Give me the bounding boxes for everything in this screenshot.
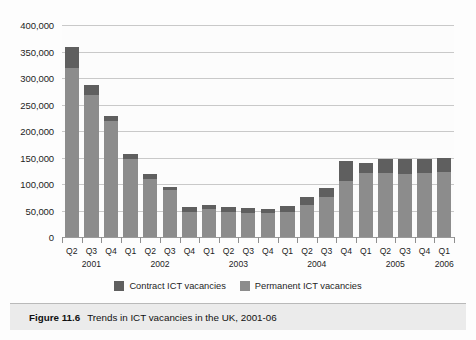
bar-series-group — [62, 25, 454, 237]
quarter-label: Q2 — [380, 246, 391, 256]
x-axis-tick — [434, 237, 435, 243]
figure-container: 050,000100,000150,000200,000250,000300,0… — [0, 0, 476, 340]
quarter-label: Q2 — [301, 246, 312, 256]
legend-swatch-icon — [114, 281, 124, 291]
bar-segment-permanent — [378, 173, 393, 237]
quarter-label: Q2 — [144, 246, 155, 256]
bar-segment-permanent — [339, 181, 354, 237]
quarter-label: Q1 — [438, 246, 449, 256]
year-label: 2004 — [307, 259, 326, 269]
bar-segment-contract — [319, 188, 334, 198]
x-axis-tick — [336, 237, 337, 243]
bar-column — [221, 207, 236, 237]
bar-column — [339, 161, 354, 237]
x-axis-tick — [121, 237, 122, 243]
legend-label: Permanent ICT vacancies — [255, 281, 362, 291]
quarter-label: Q3 — [321, 246, 332, 256]
quarter-label: Q1 — [203, 246, 214, 256]
bar-segment-permanent — [84, 95, 99, 237]
legend-item: Contract ICT vacancies — [114, 281, 225, 291]
x-axis-quarter-labels: Q2Q3Q4Q1Q2Q3Q4Q1Q2Q3Q4Q1Q2Q3Q4Q1Q2Q3Q4Q1 — [62, 246, 454, 259]
y-axis-tick-label: 50,000 — [26, 205, 54, 216]
bar-segment-permanent — [202, 209, 217, 237]
x-axis-tick — [376, 237, 377, 243]
legend-label: Contract ICT vacancies — [129, 281, 225, 291]
bar-column — [319, 188, 334, 237]
bar-column — [280, 206, 295, 237]
bar-column — [300, 197, 315, 237]
bar-column — [437, 158, 452, 237]
x-axis-tick — [199, 237, 200, 243]
x-axis-tick — [160, 237, 161, 243]
legend-item: Permanent ICT vacancies — [240, 281, 362, 291]
y-axis-tick-label: 0 — [49, 232, 54, 243]
bar-column — [104, 116, 119, 237]
bar-segment-permanent — [241, 213, 256, 237]
bar-segment-permanent — [123, 159, 138, 237]
year-label: 2002 — [150, 259, 169, 269]
figure-caption: Figure 11.6 Trends in ICT vacancies in t… — [10, 304, 466, 330]
bar-segment-contract — [417, 159, 432, 174]
bar-segment-permanent — [437, 172, 452, 237]
y-axis-tick-label: 100,000 — [20, 179, 54, 190]
bar-column — [84, 85, 99, 237]
bar-segment-contract — [437, 158, 452, 173]
quarter-label: Q3 — [399, 246, 410, 256]
bar-column — [143, 174, 158, 237]
x-axis-tick — [454, 237, 455, 243]
bar-column — [182, 207, 197, 237]
year-label: 2005 — [386, 259, 405, 269]
year-label: 2006 — [435, 259, 454, 269]
bar-segment-contract — [84, 85, 99, 95]
y-axis-tick-label: 250,000 — [20, 99, 54, 110]
quarter-label: Q4 — [184, 246, 195, 256]
x-axis-year-labels: 200120022003200420052006 — [62, 259, 454, 273]
bar-column — [202, 205, 217, 237]
bar-segment-contract — [65, 47, 80, 68]
quarter-label: Q4 — [105, 246, 116, 256]
bar-column — [123, 154, 138, 237]
bar-segment-permanent — [280, 212, 295, 237]
bar-column — [163, 187, 178, 237]
x-axis-tick — [297, 237, 298, 243]
x-axis-tick — [415, 237, 416, 243]
x-axis-tick — [101, 237, 102, 243]
bar-segment-permanent — [261, 213, 276, 237]
y-axis-tick-label: 350,000 — [20, 46, 54, 57]
quarter-label: Q3 — [242, 246, 253, 256]
x-axis-tick — [317, 237, 318, 243]
quarter-label: Q3 — [86, 246, 97, 256]
quarter-label: Q2 — [223, 246, 234, 256]
bar-segment-contract — [398, 159, 413, 175]
y-axis-tick-label: 150,000 — [20, 152, 54, 163]
y-axis-tick-label: 300,000 — [20, 73, 54, 84]
year-label: 2001 — [82, 259, 101, 269]
legend-swatch-icon — [240, 281, 250, 291]
caption-number: Figure 11.6 — [29, 312, 80, 323]
y-axis-tick-label: 200,000 — [20, 126, 54, 137]
plot-area — [62, 25, 454, 237]
bar-segment-permanent — [398, 174, 413, 237]
x-axis-tick — [219, 237, 220, 243]
x-axis-tick — [180, 237, 181, 243]
bar-segment-contract — [300, 197, 315, 205]
bar-column — [359, 163, 374, 237]
x-axis-tick — [140, 237, 141, 243]
bar-segment-permanent — [104, 121, 119, 237]
bar-column — [261, 209, 276, 237]
bar-segment-permanent — [182, 212, 197, 237]
quarter-label: Q4 — [262, 246, 273, 256]
bar-column — [241, 208, 256, 237]
quarter-label: Q2 — [66, 246, 77, 256]
x-axis-tick — [278, 237, 279, 243]
x-axis-tick — [395, 237, 396, 243]
bar-column — [398, 159, 413, 237]
bar-segment-permanent — [221, 212, 236, 237]
bar-segment-contract — [359, 163, 374, 174]
bar-segment-permanent — [300, 205, 315, 237]
y-axis-tick-label: 400,000 — [20, 20, 54, 31]
quarter-label: Q4 — [340, 246, 351, 256]
quarter-label: Q4 — [419, 246, 430, 256]
year-label: 2003 — [229, 259, 248, 269]
bar-segment-contract — [339, 161, 354, 181]
